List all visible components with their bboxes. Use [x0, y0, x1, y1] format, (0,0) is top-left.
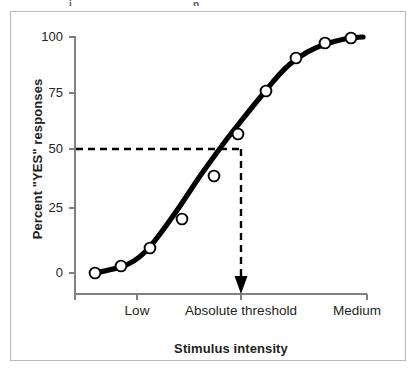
caption-remnant-right: p [193, 0, 199, 6]
data-point [261, 86, 272, 97]
y-tick-label-0: 0 [19, 266, 63, 279]
psychometric-function-figure: j p [0, 0, 416, 371]
data-point [116, 261, 127, 272]
data-point [145, 243, 156, 254]
psychometric-curve [95, 37, 363, 273]
x-axis [75, 288, 367, 300]
data-point [320, 38, 331, 49]
data-point [209, 171, 220, 182]
x-axis-title: Stimulus intensity [85, 342, 377, 356]
y-axis-title: Percent "YES" responses [31, 69, 45, 249]
y-tick-label-100: 100 [19, 30, 63, 43]
data-point [291, 53, 302, 64]
data-point [177, 214, 188, 225]
x-tick-label-low: Low [97, 304, 177, 317]
x-tick-label-medium: Medium [317, 304, 397, 317]
threshold-vertical-arrow [235, 149, 248, 294]
x-tick-label-absolute-threshold: Absolute threshold [171, 304, 311, 317]
data-point [90, 268, 101, 279]
caption-remnant-left: j [69, 0, 72, 6]
data-point [233, 129, 244, 140]
data-point-markers [90, 33, 357, 279]
figure-frame: 100 75 50 25 0 Low Absolute threshold Me… [10, 11, 406, 361]
y-axis [69, 36, 75, 294]
data-point [346, 33, 357, 44]
